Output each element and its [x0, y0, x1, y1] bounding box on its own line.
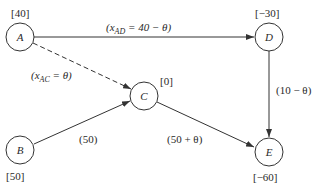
edge-B-C-label: (50) — [79, 134, 97, 145]
node-A-supply: [40] — [11, 8, 29, 19]
node-B-label: B — [6, 145, 34, 156]
node-C-label: C — [130, 91, 158, 102]
edge-A-C-label: (xAC = θ) — [31, 70, 72, 84]
edge-D-E-label: (10 − θ) — [276, 85, 311, 96]
node-E-label: E — [255, 147, 283, 158]
node-E-supply: [−60] — [253, 172, 278, 183]
node-D-supply: [−30] — [255, 8, 280, 19]
edge-A-D-label: (xAD = 40 − θ) — [106, 22, 171, 36]
edge-C-E-label: (50 + θ) — [167, 134, 202, 145]
node-C-supply: [0] — [160, 76, 173, 87]
node-B-supply: [50] — [6, 171, 24, 182]
node-D-label: D — [255, 32, 283, 43]
node-A-label: A — [6, 32, 34, 43]
